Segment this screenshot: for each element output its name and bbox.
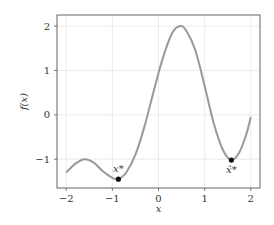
local-min-label: x̂*	[226, 164, 237, 175]
y-tick-label: 2	[44, 21, 50, 32]
y-tick-label: 0	[44, 109, 50, 120]
x-tick-label: 2	[248, 193, 254, 204]
x-tick-label: −2	[59, 193, 74, 204]
x-axis-label: x	[156, 203, 162, 214]
y-tick-label: −1	[35, 154, 50, 165]
x-tick-label: 1	[201, 193, 207, 204]
y-axis-label: f(x)	[18, 93, 29, 111]
x-tick-label: −1	[105, 193, 120, 204]
local-min-marker	[229, 157, 234, 162]
global-min-marker	[116, 177, 121, 182]
y-tick-label: 1	[44, 65, 50, 76]
chart: −2−1012−1012xf(x)x*x̂*	[0, 0, 274, 225]
global-min-label: x*	[113, 163, 124, 174]
